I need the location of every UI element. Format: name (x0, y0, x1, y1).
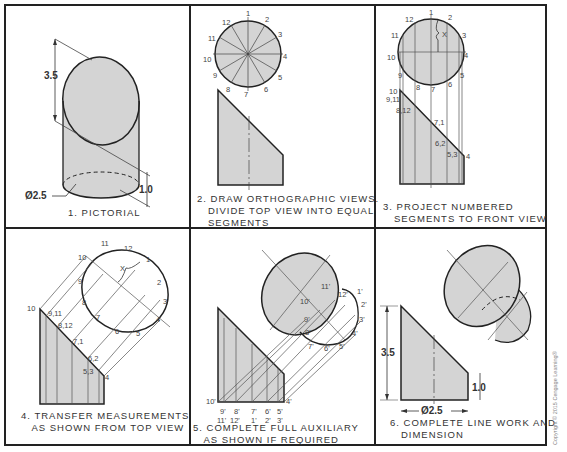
copyright: Copyright © 2015 Cengage Learning® (552, 351, 558, 445)
dim-diameter-6: Ø2.5 (421, 405, 443, 416)
caption-6: 6. COMPLETE LINE WORK AND DIMENSION (390, 417, 556, 441)
dim-short-6: 1.0 (472, 382, 486, 393)
dim-height-6: 3.5 (381, 347, 395, 358)
